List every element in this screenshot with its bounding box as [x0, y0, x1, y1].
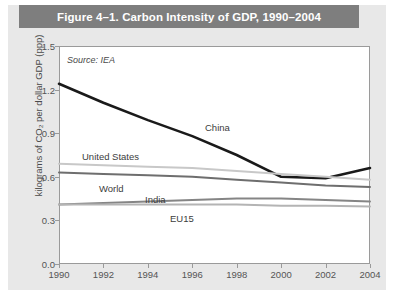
- x-tick-label: 1992: [83, 269, 123, 280]
- y-tick-label: 0.6: [29, 171, 55, 182]
- y-tick-mark: [55, 220, 59, 221]
- x-tick-mark: [237, 264, 238, 268]
- x-tick-mark: [370, 264, 371, 268]
- y-tick-mark: [55, 90, 59, 91]
- series-label-china: China: [205, 122, 230, 133]
- chart-container: kilograms of CO₂ per dollar GDP (ppp) 0.…: [0, 0, 394, 300]
- y-tick-mark: [55, 177, 59, 178]
- y-tick-label: 0.3: [29, 215, 55, 226]
- series-label-united-states: United States: [82, 151, 139, 162]
- x-tick-mark: [326, 264, 327, 268]
- series-label-eu15: EU15: [170, 213, 194, 224]
- x-tick-label: 2000: [261, 269, 301, 280]
- x-tick-mark: [192, 264, 193, 268]
- x-tick-label: 2004: [350, 269, 390, 280]
- y-tick-label: 0.0: [29, 259, 55, 270]
- y-tick-label: 1.5: [29, 41, 55, 52]
- y-tick-mark: [55, 46, 59, 47]
- x-tick-label: 1994: [128, 269, 168, 280]
- series-label-india: India: [145, 194, 166, 205]
- y-tick-label: 1.2: [29, 84, 55, 95]
- y-tick-label: 0.9: [29, 128, 55, 139]
- source-note: Source: IEA: [67, 55, 115, 65]
- x-tick-mark: [103, 264, 104, 268]
- x-tick-mark: [281, 264, 282, 268]
- series-label-world: World: [99, 183, 124, 194]
- x-tick-label: 1990: [39, 269, 79, 280]
- x-tick-label: 1998: [217, 269, 257, 280]
- x-tick-label: 2002: [306, 269, 346, 280]
- y-tick-mark: [55, 133, 59, 134]
- x-tick-label: 1996: [172, 269, 212, 280]
- x-tick-mark: [59, 264, 60, 268]
- x-tick-mark: [148, 264, 149, 268]
